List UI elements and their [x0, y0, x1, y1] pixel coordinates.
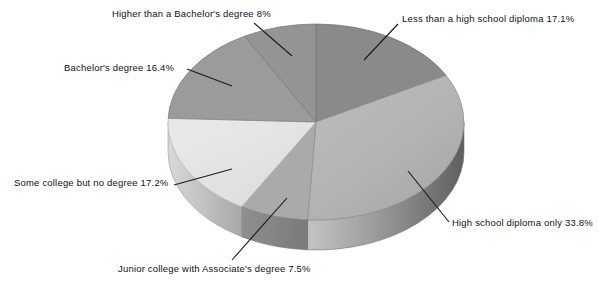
pie-chart-figure: Higher than a Bachelor's degree 8% Less …	[0, 0, 599, 289]
slice-label-high-school-diploma-only: High school diploma only 33.8%	[452, 218, 593, 228]
pie-chart-graphic	[0, 0, 599, 289]
slice-label-less-than-high-school-diploma: Less than a high school diploma 17.1%	[402, 14, 574, 24]
slice-label-higher-than-bachelors-degree: Higher than a Bachelor's degree 8%	[112, 9, 271, 19]
slice-label-some-college-but-no-degree: Some college but no degree 17.2%	[14, 178, 169, 188]
slice-label-bachelors-degree: Bachelor's degree 16.4%	[64, 63, 174, 73]
pie-top-surface	[168, 24, 464, 220]
slice-label-junior-college-associates-degree: Junior college with Associate's degree 7…	[118, 264, 311, 274]
